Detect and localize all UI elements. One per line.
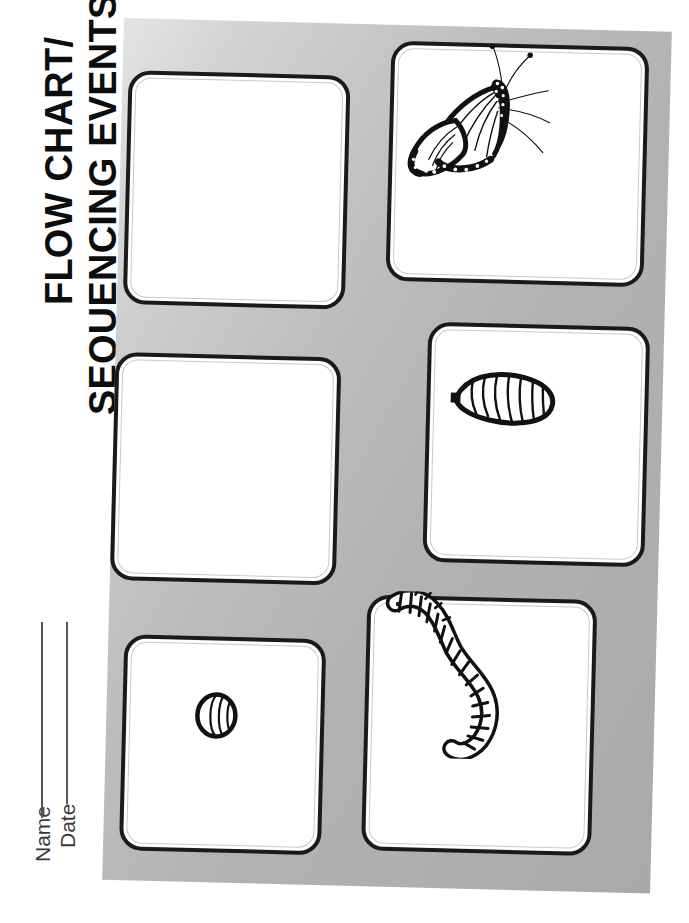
title-line-1: FLOW CHART/: [38, 37, 81, 305]
date-field-input[interactable]: [66, 622, 68, 804]
name-field-input[interactable]: [41, 622, 43, 818]
flow-box-5[interactable]: [119, 634, 326, 855]
flow-box-3[interactable]: [110, 352, 342, 586]
worksheet-panel: [102, 18, 672, 894]
flow-box-4[interactable]: [422, 322, 650, 568]
flow-box-6[interactable]: [361, 594, 597, 856]
page-title: FLOW CHART/ SEQUENCING EVENTS: [0, 0, 130, 470]
flow-box-1[interactable]: [123, 70, 351, 310]
worksheet-page: FLOW CHART/ SEQUENCING EVENTS Name Date: [0, 0, 689, 923]
flow-box-2[interactable]: [385, 41, 649, 287]
date-field-label: Date: [56, 804, 80, 848]
name-field-label: Name: [31, 806, 55, 862]
